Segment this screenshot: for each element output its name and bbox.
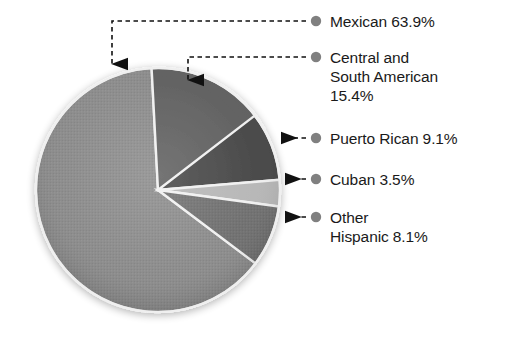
callout-label-central-south-american-line2: South American bbox=[330, 68, 438, 85]
callout-label-puerto-rican: Puerto Rican 9.1% bbox=[330, 130, 458, 147]
callout-bullets bbox=[311, 16, 321, 222]
bullet-dot-central-south-american bbox=[311, 52, 321, 62]
callout-label-mexican: Mexican 63.9% bbox=[330, 13, 435, 30]
pie-shading bbox=[36, 68, 280, 312]
bullet-dot-cuban bbox=[311, 174, 321, 184]
callout-label-cuban: Cuban 3.5% bbox=[330, 171, 415, 188]
bullet-dot-other-hispanic bbox=[311, 212, 321, 222]
pie-chart-figure: Mexican 63.9% Central and South American… bbox=[0, 0, 531, 340]
callout-labels: Mexican 63.9% Central and South American… bbox=[330, 13, 458, 245]
callout-label-central-south-american-line1: Central and bbox=[330, 49, 409, 66]
callout-label-central-south-american-line3: 15.4% bbox=[330, 87, 374, 104]
pie-body bbox=[35, 67, 281, 313]
callout-label-other-hispanic-line1: Other bbox=[330, 209, 368, 226]
callout-label-other-hispanic-line2: Hispanic 8.1% bbox=[330, 228, 428, 245]
bullet-dot-mexican bbox=[311, 16, 321, 26]
bullet-dot-puerto-rican bbox=[311, 133, 321, 143]
pie-chart-svg: Mexican 63.9% Central and South American… bbox=[0, 0, 531, 340]
